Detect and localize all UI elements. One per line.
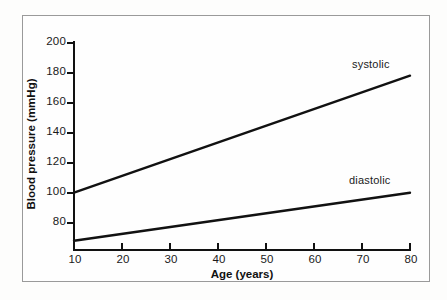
series-annotation-diastolic: diastolic <box>349 174 391 186</box>
chart-series-layer <box>0 0 447 300</box>
chart-screenshot: 200 180 160 140 120 100 80 10 20 30 <box>0 0 447 300</box>
chart-plot-area: 200 180 160 140 120 100 80 10 20 30 <box>0 0 447 300</box>
series-annotation-systolic: systolic <box>352 58 390 70</box>
series-line-diastolic <box>74 193 410 241</box>
